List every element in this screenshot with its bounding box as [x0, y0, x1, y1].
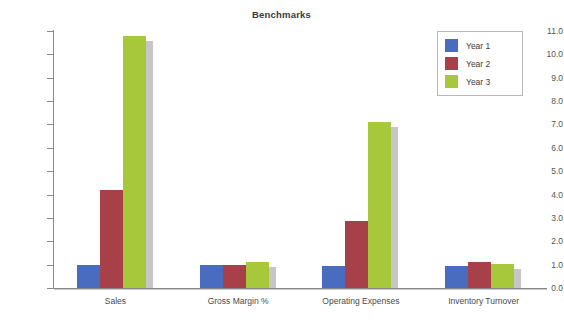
y-axis-tick	[47, 148, 53, 149]
bar-gross-margin-year1[interactable]	[200, 265, 223, 288]
bar-gross-margin-year2[interactable]	[223, 265, 246, 288]
bar-inventory-turnover-year1[interactable]	[445, 266, 468, 288]
bar-shadow	[514, 269, 521, 288]
legend-swatch-year1-icon	[445, 39, 458, 52]
y-axis-tick	[47, 171, 53, 172]
bar-shadow	[269, 267, 276, 288]
y-axis-tick	[47, 124, 53, 125]
bar-operating-expenses-year1[interactable]	[322, 266, 345, 288]
y-axis-tick	[47, 218, 53, 219]
legend-item-year1[interactable]: Year 1	[445, 38, 515, 53]
legend-item-year2[interactable]: Year 2	[445, 56, 515, 71]
chart-legend: Year 1 Year 2 Year 3	[437, 31, 523, 96]
y-axis-tick	[47, 101, 53, 102]
bar-sales-year3[interactable]	[123, 36, 146, 288]
bar-shadow	[391, 127, 398, 288]
y-axis-tick	[47, 288, 53, 289]
x-axis-label-inventory-turnover: Inventory Turnover	[404, 296, 564, 306]
y-axis-tick	[47, 265, 53, 266]
bar-shadow	[146, 41, 153, 288]
legend-swatch-year2-icon	[445, 57, 458, 70]
legend-swatch-year3-icon	[445, 75, 458, 88]
bar-operating-expenses-year2[interactable]	[345, 221, 368, 288]
legend-label-year3: Year 3	[466, 77, 490, 87]
chart-title: Benchmarks	[0, 9, 563, 20]
bar-sales-year1[interactable]	[77, 265, 100, 288]
y-axis-tick	[47, 31, 53, 32]
bar-inventory-turnover-year3[interactable]	[491, 264, 514, 288]
y-axis-tick	[47, 54, 53, 55]
legend-label-year1: Year 1	[466, 41, 490, 51]
legend-item-year3[interactable]: Year 3	[445, 74, 515, 89]
bar-inventory-turnover-year2[interactable]	[468, 262, 491, 288]
y-axis-tick	[47, 241, 53, 242]
x-axis-shadow-line	[54, 289, 547, 290]
legend-label-year2: Year 2	[466, 59, 490, 69]
y-axis-tick	[47, 195, 53, 196]
bar-operating-expenses-year3[interactable]	[368, 122, 391, 288]
bar-gross-margin-year3[interactable]	[246, 262, 269, 288]
bar-sales-year2[interactable]	[100, 190, 123, 288]
y-axis-tick	[47, 78, 53, 79]
